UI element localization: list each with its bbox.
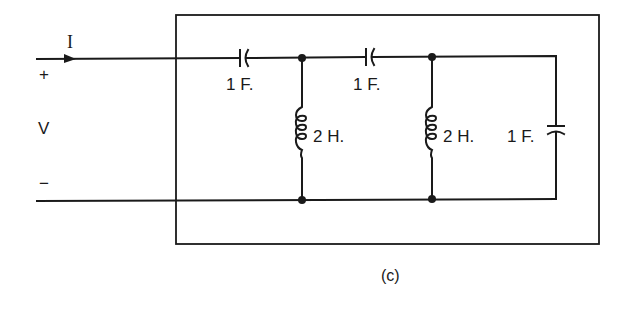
figure-caption: (c): [381, 268, 400, 284]
c2-value-label: 1 F.: [353, 76, 380, 93]
node-1-top: [298, 54, 306, 62]
node-2-bottom: [428, 195, 436, 203]
minus-terminal-label: −: [39, 175, 49, 192]
inductor-l1-icon: [296, 58, 306, 200]
l1-value-label: 2 H.: [313, 128, 344, 145]
c3-value-label: 1 F.: [507, 128, 534, 145]
c1-value-label: 1 F.: [226, 76, 253, 93]
current-label: I: [67, 33, 73, 51]
inductor-l2-icon: [426, 57, 436, 199]
current-arrow-icon: [64, 54, 76, 63]
plus-terminal-label: +: [39, 66, 49, 83]
node-2-top: [428, 53, 436, 61]
node-1-bottom: [298, 196, 306, 204]
l2-value-label: 2 H.: [443, 128, 474, 145]
bottom-wire: [37, 199, 556, 201]
circuit-diagram: [0, 0, 623, 314]
voltage-label: V: [38, 120, 49, 137]
